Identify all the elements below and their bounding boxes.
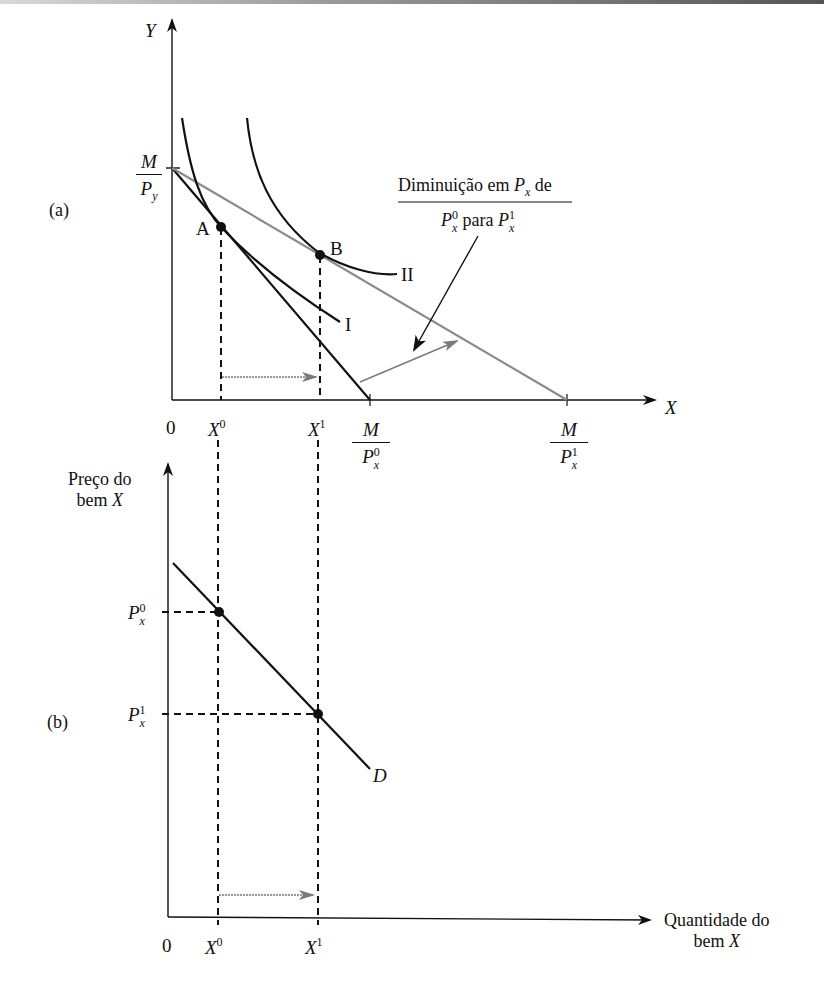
- x1-label-a: X1: [308, 418, 326, 439]
- demand-curve-label: D: [373, 766, 387, 785]
- x-axis-b: [168, 917, 650, 920]
- x0-label-a: X0: [208, 418, 226, 439]
- demand-point-1: [313, 709, 323, 719]
- y-intercept-label: M Py: [136, 152, 162, 202]
- panel-b: [162, 440, 650, 925]
- p1-label: P1x: [128, 705, 146, 728]
- curve-II-label: II: [401, 265, 414, 284]
- panel-b-tag: (b): [47, 713, 68, 731]
- budget-line-initial: [172, 168, 370, 400]
- annotation-line-2: P0x para P1x: [441, 210, 515, 233]
- annotation-line-1: Diminuição em Px de: [398, 176, 552, 198]
- point-B-label: B: [330, 239, 343, 258]
- x-axis-label-a: X: [665, 398, 677, 417]
- x-intercept-0-label: M P0x: [352, 420, 390, 470]
- x-intercept-1-label: M P1x: [550, 420, 588, 470]
- origin-a: 0: [166, 418, 176, 437]
- y-axis-label-b: Preço do bem X: [68, 469, 131, 511]
- origin-b: 0: [162, 936, 172, 955]
- x0-label-b: X0: [205, 936, 223, 957]
- y-axis-label-a: Y: [145, 21, 156, 40]
- rotation-arrow: [360, 341, 457, 382]
- p0-label: P0x: [128, 603, 146, 626]
- point-A-label: A: [196, 219, 210, 238]
- budget-line-new: [172, 168, 567, 400]
- annotation-pointer-arrow: [414, 236, 478, 350]
- point-B: [315, 250, 325, 260]
- x-axis-label-b: Quantidade do bem X: [664, 910, 769, 952]
- x1-label-b: X1: [305, 936, 323, 957]
- panel-a-tag: (a): [49, 201, 69, 219]
- demand-point-0: [214, 607, 224, 617]
- curve-I-label: I: [345, 315, 351, 334]
- panel-a: [166, 20, 655, 406]
- point-A: [216, 222, 226, 232]
- demand-curve: [173, 563, 370, 769]
